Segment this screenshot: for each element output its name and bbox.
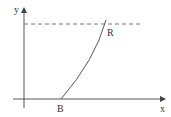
- point-r-label: R: [107, 27, 114, 38]
- curve-b-to-r: [61, 20, 106, 99]
- diagram-canvas: y x B R: [0, 0, 171, 117]
- point-b-label: B: [57, 103, 64, 114]
- y-axis-label: y: [14, 4, 19, 15]
- x-axis-label: x: [160, 103, 165, 114]
